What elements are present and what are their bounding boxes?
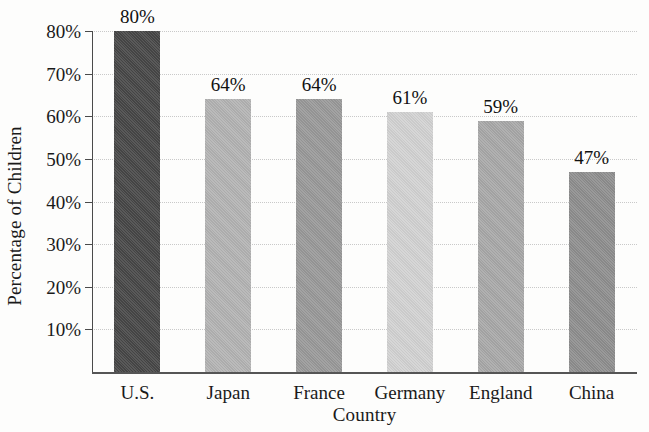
y-tick-label: 40% — [46, 192, 81, 211]
bar — [569, 172, 615, 372]
y-tick-label: 10% — [46, 320, 81, 339]
gridline — [92, 287, 637, 289]
category-label: France — [293, 383, 345, 402]
category-label: U.S. — [121, 383, 155, 402]
bar-value-label: 64% — [211, 75, 246, 94]
bar — [478, 121, 524, 372]
bar-value-label: 61% — [392, 88, 427, 107]
category-label: China — [569, 383, 614, 402]
bar-chart: Percentage of Children 10%20%30%40%50%60… — [0, 0, 649, 432]
category-label: Germany — [375, 383, 446, 402]
gridline — [92, 31, 637, 33]
bar-value-label: 47% — [574, 148, 609, 167]
y-tick-mark — [85, 116, 93, 117]
y-tick-mark — [85, 287, 93, 288]
y-tick-label: 20% — [46, 277, 81, 296]
y-tick-label: 50% — [46, 149, 81, 168]
gridline — [92, 116, 637, 118]
y-tick-mark — [85, 31, 93, 32]
x-axis-line — [92, 372, 637, 374]
y-tick-label: 30% — [46, 235, 81, 254]
bar-value-label: 80% — [120, 7, 155, 26]
gridline — [92, 159, 637, 161]
bar — [296, 99, 342, 372]
y-tick-mark — [85, 159, 93, 160]
gridline — [92, 74, 637, 76]
bar-value-label: 59% — [483, 97, 518, 116]
gridline — [92, 329, 637, 331]
plot-area: 10%20%30%40%50%60%70%80% 80%64%64%61%59%… — [92, 31, 637, 372]
x-axis-title: Country — [92, 404, 637, 426]
bar-value-label: 64% — [302, 75, 337, 94]
y-tick-mark — [85, 244, 93, 245]
y-axis-title: Percentage of Children — [0, 0, 30, 432]
category-label: Japan — [207, 383, 250, 402]
category-label: England — [469, 383, 532, 402]
gridline — [92, 202, 637, 204]
y-tick-label: 70% — [46, 64, 81, 83]
y-tick-mark — [85, 74, 93, 75]
y-tick-label: 60% — [46, 107, 81, 126]
bar — [387, 112, 433, 372]
bar — [205, 99, 251, 372]
y-tick-mark — [85, 329, 93, 330]
y-tick-label: 80% — [46, 22, 81, 41]
gridline — [92, 244, 637, 246]
y-tick-mark — [85, 202, 93, 203]
bar — [114, 31, 160, 372]
